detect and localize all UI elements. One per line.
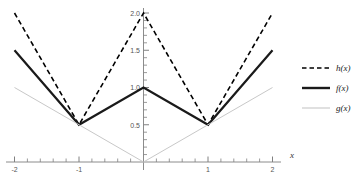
legend-label-gx: g(x) [336,103,351,113]
x-tick-label: -2 [11,166,17,173]
y-axis-major-ticks [144,13,150,125]
y-tick-label: 1.5 [130,47,140,54]
y-tick-label: 0.5 [130,122,140,129]
x-tick-label: 1 [206,166,210,173]
legend-label-fx: f(x) [336,83,349,93]
x-tick-label: 2 [271,166,275,173]
x-axis-tick-labels: -2-112 [11,166,274,173]
x-tick-label: -1 [76,166,82,173]
y-tick-label: 2.0 [130,10,140,17]
x-axis-label: x [289,150,294,160]
plot-area: -2-112 0.51.01.52.0 x h(x)f(x)g(x) [0,0,352,186]
chart-legend: h(x)f(x)g(x) [302,63,351,113]
chart-container: -2-112 0.51.01.52.0 x h(x)f(x)g(x) [0,0,352,186]
legend-label-hx: h(x) [336,63,351,73]
